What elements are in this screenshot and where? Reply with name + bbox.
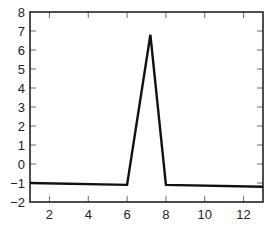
y-tick-label: 8 — [18, 5, 25, 20]
y-tick-label: 7 — [18, 24, 25, 39]
data-line — [30, 35, 263, 187]
x-tick-label: 12 — [236, 207, 250, 222]
plot-frame — [30, 12, 263, 202]
y-tick-label: −1 — [10, 176, 25, 191]
y-tick-label: −2 — [10, 195, 25, 210]
y-tick-label: 0 — [18, 157, 25, 172]
y-tick-label: 1 — [18, 138, 25, 153]
x-tick-label: 8 — [162, 207, 169, 222]
x-tick-label: 4 — [85, 207, 92, 222]
x-tick-label: 6 — [123, 207, 130, 222]
y-tick-label: 2 — [18, 119, 25, 134]
y-tick-label: 3 — [18, 100, 25, 115]
y-tick-label: 6 — [18, 43, 25, 58]
y-axis-ticks: −2−1012345678 — [10, 5, 263, 210]
x-tick-label: 2 — [46, 207, 53, 222]
line-chart: −2−1012345678 24681012 — [0, 0, 271, 228]
x-tick-label: 10 — [198, 207, 212, 222]
y-tick-label: 5 — [18, 62, 25, 77]
y-tick-label: 4 — [18, 81, 25, 96]
